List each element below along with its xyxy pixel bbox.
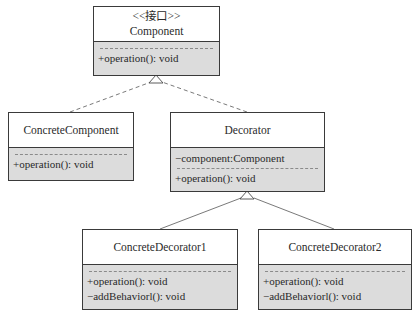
operation: +operation(): void bbox=[98, 51, 215, 66]
class-operations: +operation(): void bbox=[94, 42, 219, 75]
class-name: Decorator bbox=[225, 123, 271, 138]
compartment-divider bbox=[100, 48, 213, 49]
class-members: −component:Component +operation(): void bbox=[171, 148, 324, 191]
operation: +operation(): void bbox=[13, 157, 129, 172]
class-decorator: Decorator −component:Component +operatio… bbox=[170, 112, 325, 192]
class-component: <<接口>> Component +operation(): void bbox=[93, 6, 220, 76]
class-name: ConcreteComponent bbox=[23, 123, 118, 138]
class-name: Component bbox=[130, 24, 184, 39]
operation: +operation(): void bbox=[263, 274, 407, 289]
class-concretecomponent: ConcreteComponent +operation(): void bbox=[8, 112, 134, 181]
class-concretedecorator1: ConcreteDecorator1 +operation(): void −a… bbox=[82, 229, 238, 310]
realization-line-decorator bbox=[162, 82, 247, 112]
class-operations: +operation(): void −addBehaviorl(): void bbox=[83, 265, 237, 309]
class-header: Decorator bbox=[171, 113, 324, 148]
operation: −addBehaviorl(): void bbox=[263, 289, 407, 304]
compartment-divider bbox=[265, 271, 405, 272]
compartment-divider bbox=[177, 168, 318, 169]
class-header: ConcreteComponent bbox=[9, 113, 133, 148]
class-operations: +operation(): void −addBehaviorl(): void bbox=[259, 265, 411, 309]
compartment-divider bbox=[15, 154, 127, 155]
realization-arrowhead-icon bbox=[149, 75, 163, 83]
generalization-line-decorator2 bbox=[254, 198, 334, 229]
class-stereotype: <<接口>> bbox=[133, 9, 181, 24]
class-name: ConcreteDecorator2 bbox=[288, 240, 381, 255]
class-header: <<接口>> Component bbox=[94, 7, 219, 42]
class-header: ConcreteDecorator2 bbox=[259, 230, 411, 265]
compartment-divider bbox=[89, 271, 231, 272]
class-name: ConcreteDecorator1 bbox=[113, 240, 206, 255]
class-operations: +operation(): void bbox=[9, 148, 133, 180]
operation: +operation(): void bbox=[175, 171, 320, 186]
attribute: −component:Component bbox=[175, 151, 320, 166]
class-header: ConcreteDecorator1 bbox=[83, 230, 237, 265]
operation: +operation(): void bbox=[87, 274, 233, 289]
realization-line-concretecomponent bbox=[70, 82, 151, 112]
generalization-line-decorator1 bbox=[160, 198, 241, 229]
generalization-arrowhead-icon bbox=[240, 191, 254, 199]
operation: −addBehaviorl(): void bbox=[87, 289, 233, 304]
class-concretedecorator2: ConcreteDecorator2 +operation(): void −a… bbox=[258, 229, 412, 310]
